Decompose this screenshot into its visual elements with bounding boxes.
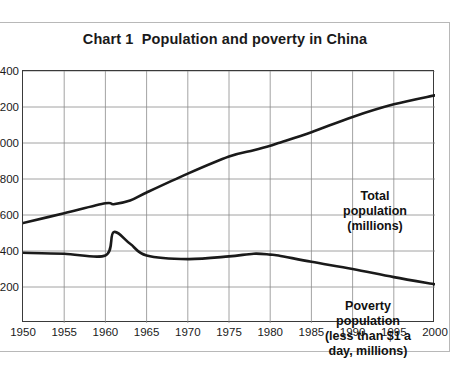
y-axis-tick-1000: 1000 xyxy=(0,137,19,149)
y-axis-tick-1200: 1200 xyxy=(0,101,19,113)
x-axis-tick-1985: 1985 xyxy=(299,326,325,338)
plot-area: 140012001000800600400200 195019551960196… xyxy=(22,70,434,322)
x-axis-tick-2000: 2000 xyxy=(422,326,448,338)
x-axis-tick-1970: 1970 xyxy=(175,326,201,338)
y-axis-tick-200: 200 xyxy=(0,281,19,293)
y-axis-tick-800: 800 xyxy=(0,173,19,185)
x-axis-tick-1990: 1990 xyxy=(340,326,366,338)
x-axis-tick-1995: 1995 xyxy=(381,326,407,338)
y-axis-tick-1400: 1400 xyxy=(0,65,19,77)
x-axis-tick-1960: 1960 xyxy=(93,326,119,338)
y-axis-tick-400: 400 xyxy=(0,245,19,257)
x-axis-tick-1950: 1950 xyxy=(10,326,36,338)
chart-screenshot: Chart 1 Population and poverty in China … xyxy=(0,0,473,370)
x-axis-tick-1980: 1980 xyxy=(257,326,283,338)
x-axis-tick-1965: 1965 xyxy=(134,326,160,338)
vertical-gridlines xyxy=(64,71,394,323)
chart-title: Chart 1 Population and poverty in China xyxy=(0,31,450,47)
y-axis-tick-600: 600 xyxy=(0,209,19,221)
x-axis-tick-1955: 1955 xyxy=(51,326,77,338)
x-axis-tick-1975: 1975 xyxy=(216,326,242,338)
plot-canvas xyxy=(23,71,435,323)
